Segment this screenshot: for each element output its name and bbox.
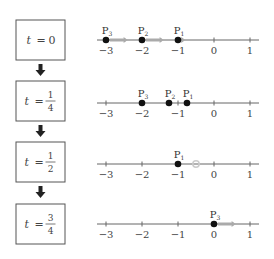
tick-label: 0: [211, 229, 217, 240]
time-variable: t: [27, 34, 32, 47]
tick-label: −2: [135, 45, 150, 56]
down-arrow-icon: [39, 64, 43, 71]
down-arrow-icon: [36, 131, 46, 137]
point-subscript: 3: [108, 30, 112, 37]
fraction-denominator: 4: [48, 226, 54, 236]
point-label: P3: [138, 88, 149, 100]
point-marker: [139, 37, 146, 44]
tick-label: −1: [171, 229, 186, 240]
time-value: 0: [49, 34, 56, 47]
fraction-numerator: 1: [48, 151, 54, 161]
point-subscript: 2: [171, 93, 175, 100]
fraction-denominator: 4: [48, 103, 54, 113]
tick-label: −3: [99, 45, 114, 56]
time-variable: t: [25, 218, 30, 231]
tick-label: −3: [99, 169, 114, 180]
tick-label: 1: [247, 169, 253, 180]
point-label: P2: [165, 88, 176, 100]
point-label: P3: [102, 25, 113, 37]
motion-arrow-head: [160, 37, 164, 43]
equals-sign: =: [37, 34, 46, 47]
tick-label: −3: [99, 108, 114, 119]
point-marker: [139, 100, 146, 107]
tick-label: −2: [135, 169, 150, 180]
motion-arrow-head: [232, 221, 236, 227]
down-arrow-icon: [36, 192, 46, 198]
point-subscript: 2: [144, 30, 148, 37]
point-marker: [184, 100, 191, 107]
point-label: P3: [210, 209, 221, 221]
equals-sign: =: [35, 218, 44, 231]
tick-label: −1: [171, 45, 186, 56]
tick-label: −1: [171, 108, 186, 119]
tick-label: 0: [211, 169, 217, 180]
point-subscript: 1: [180, 30, 184, 37]
tick-label: −2: [135, 229, 150, 240]
tick-label: −2: [135, 108, 150, 119]
point-marker: [103, 37, 110, 44]
point-subscript: 1: [189, 93, 193, 100]
point-label: P2: [138, 25, 149, 37]
tick-label: −3: [99, 229, 114, 240]
motion-arrow-head: [124, 37, 128, 43]
motion-arrow-head: [181, 37, 185, 43]
time-variable: t: [25, 156, 30, 169]
point-label: P1: [174, 149, 185, 161]
point-subscript: 3: [144, 93, 148, 100]
point-marker: [166, 100, 173, 107]
tick-label: 1: [247, 229, 253, 240]
tick-label: 1: [247, 108, 253, 119]
point-subscript: 1: [180, 154, 184, 161]
point-marker: [211, 221, 218, 228]
point-subscript: 3: [216, 214, 220, 221]
equals-sign: =: [35, 156, 44, 169]
point-label: P1: [174, 25, 185, 37]
point-marker: [175, 37, 182, 44]
fraction-denominator: 2: [48, 164, 54, 174]
tick-label: 0: [211, 108, 217, 119]
down-arrow-icon: [39, 186, 43, 193]
fraction-numerator: 1: [48, 90, 54, 100]
time-variable: t: [25, 95, 30, 108]
down-arrow-icon: [39, 125, 43, 132]
point-label: P1: [183, 88, 194, 100]
point-marker: [175, 161, 182, 168]
tick-label: −1: [171, 169, 186, 180]
down-arrow-icon: [36, 70, 46, 76]
tick-label: 1: [247, 45, 253, 56]
motion-diagram: t=0−3−2−101P3P2P1t=14−3−2−101P3P2P1t=12−…: [0, 0, 274, 259]
tick-label: 0: [211, 45, 217, 56]
equals-sign: =: [35, 95, 44, 108]
fraction-numerator: 3: [48, 213, 54, 223]
